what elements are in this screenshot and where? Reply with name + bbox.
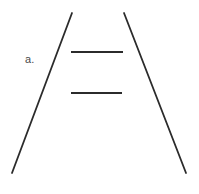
figure-background (0, 0, 199, 194)
ponzo-illusion-figure: a. (0, 0, 199, 194)
figure-canvas (0, 0, 199, 194)
figure-item-label: a. (25, 53, 35, 66)
